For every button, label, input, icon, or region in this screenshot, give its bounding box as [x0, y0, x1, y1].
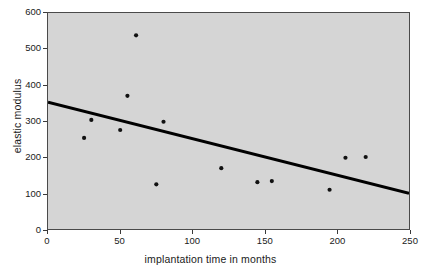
y-tick-mark: [43, 121, 47, 122]
x-tick-mark: [265, 230, 266, 234]
axis-tick-layer: 0100200300400500600050100150200250: [0, 0, 421, 275]
y-tick-label: 600: [7, 7, 41, 17]
x-tick-label: 200: [317, 236, 357, 246]
y-tick-mark: [43, 12, 47, 13]
y-tick-mark: [43, 157, 47, 158]
y-tick-label: 100: [7, 189, 41, 199]
x-tick-label: 0: [27, 236, 67, 246]
x-tick-label: 150: [245, 236, 285, 246]
x-tick-mark: [47, 230, 48, 234]
x-tick-label: 100: [172, 236, 212, 246]
x-tick-label: 250: [390, 236, 421, 246]
x-tick-mark: [337, 230, 338, 234]
x-tick-mark: [410, 230, 411, 234]
y-tick-mark: [43, 85, 47, 86]
scatter-chart-figure: 0100200300400500600050100150200250 impla…: [0, 0, 421, 275]
x-tick-label: 50: [100, 236, 140, 246]
y-tick-mark: [43, 194, 47, 195]
x-tick-mark: [192, 230, 193, 234]
y-tick-mark: [43, 48, 47, 49]
x-axis-title: implantation time in months: [0, 253, 421, 265]
y-axis-title: elastic modulus: [11, 51, 23, 181]
y-tick-label: 0: [7, 225, 41, 235]
x-tick-mark: [120, 230, 121, 234]
